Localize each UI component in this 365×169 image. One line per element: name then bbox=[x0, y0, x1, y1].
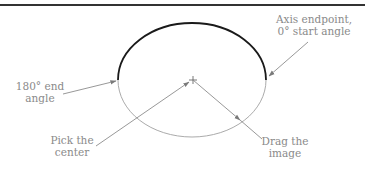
leader-pick-center bbox=[96, 82, 189, 146]
label-drag-image: Drag the image bbox=[255, 135, 315, 159]
label-axis-endpoint: Axis endpoint, 0° start angle bbox=[268, 13, 360, 37]
label-pick-center: Pick the center bbox=[44, 134, 100, 158]
drag-line bbox=[193, 80, 240, 120]
ellipse-guide-lower bbox=[118, 80, 266, 137]
label-end-angle: 180° end angle bbox=[8, 80, 72, 104]
elliptical-arc bbox=[118, 23, 266, 80]
leader-axis-endpoint bbox=[269, 42, 308, 76]
